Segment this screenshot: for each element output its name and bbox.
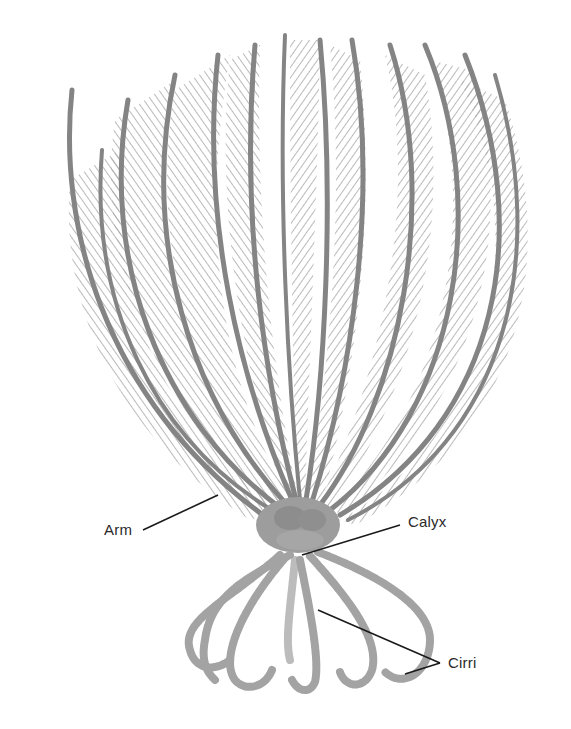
calyx-body <box>256 497 340 553</box>
arm-label: Arm <box>104 521 132 538</box>
pinnules <box>69 40 528 525</box>
crinoid-illustration <box>0 0 571 729</box>
cirri <box>189 552 430 690</box>
arm-leader-line <box>143 495 218 530</box>
cirri-label: Cirri <box>448 654 477 671</box>
crinoid-diagram: Arm Calyx Cirri <box>0 0 571 729</box>
calyx-label: Calyx <box>408 513 447 530</box>
